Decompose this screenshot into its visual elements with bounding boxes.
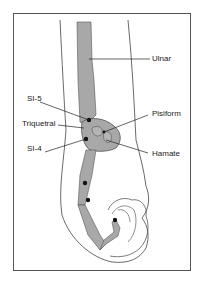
point-finger	[113, 218, 117, 222]
proximal-phalanx	[78, 205, 106, 250]
ulna-bone	[77, 22, 96, 125]
forearm-outline	[60, 20, 66, 130]
leader-triquetral	[58, 125, 84, 128]
label-hamate: Hamate	[152, 150, 180, 158]
label-triquetral: Triquetral	[22, 120, 56, 128]
distal-phalanx	[100, 220, 120, 250]
label-ulnar: Ulnar	[152, 55, 171, 63]
wrist-hand-diagram	[0, 0, 203, 286]
label-si5: SI-5	[27, 95, 42, 103]
point-metacarpal	[83, 181, 87, 185]
point-phalanx	[86, 198, 90, 202]
label-pisiform: Pisiform	[152, 110, 181, 118]
label-si4: SI-4	[27, 145, 42, 153]
metacarpal-bone	[78, 150, 96, 205]
